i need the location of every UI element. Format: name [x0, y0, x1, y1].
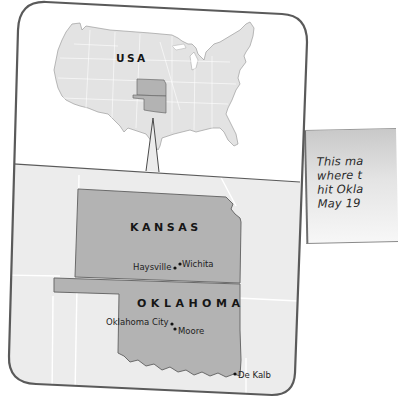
- de-kalb-marker: [233, 372, 236, 375]
- oklahoma-label: OKLAHOMA: [137, 297, 244, 310]
- kansas-label: KANSAS: [130, 221, 202, 234]
- inset-kansas: [137, 79, 166, 96]
- de-kalb-label: De Kalb: [238, 370, 271, 380]
- moore-label: Moore: [178, 326, 204, 336]
- moore-marker: [173, 327, 176, 330]
- oklahoma-city-marker: [170, 322, 173, 325]
- haysville-marker: [173, 266, 176, 269]
- oklahoma-city-label: Oklahoma City: [106, 317, 169, 327]
- haysville-label: Haysville: [133, 262, 171, 272]
- wichita-label: Wichita: [182, 259, 214, 269]
- usa-label: USA: [116, 52, 148, 64]
